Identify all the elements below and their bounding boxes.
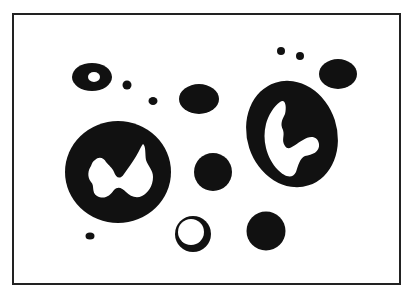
- oval-top-right: [319, 59, 357, 89]
- dot-2: [149, 97, 158, 105]
- blob-figure: [0, 0, 413, 297]
- oval-top-mid: [179, 84, 219, 114]
- ring-bottom-hole: [178, 219, 204, 245]
- dot-4: [296, 52, 304, 60]
- ring-top-left-hole: [88, 72, 100, 82]
- dot-1: [123, 81, 132, 90]
- large-cell-left: [65, 121, 171, 223]
- ring-bottom: [175, 216, 211, 252]
- ring-top-left: [72, 63, 112, 91]
- circle-bottom-right: [247, 212, 286, 251]
- dot-5: [86, 233, 95, 240]
- figure-background: [0, 0, 413, 297]
- circle-center: [194, 153, 232, 191]
- dot-3: [277, 47, 285, 55]
